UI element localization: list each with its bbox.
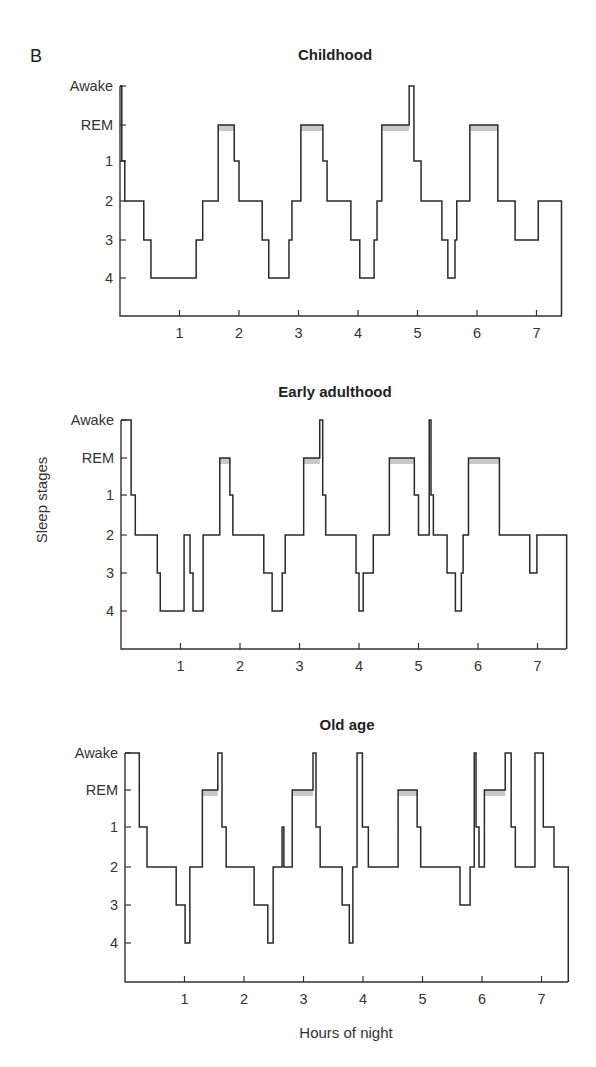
sleep-stage-figure: B Sleep stages Hours of night ChildhoodA… xyxy=(0,0,596,1067)
x-tick-label: 2 xyxy=(240,991,248,1007)
rem-shade xyxy=(382,125,409,131)
x-tick-label: 4 xyxy=(359,991,367,1007)
y-tick-label: Awake xyxy=(75,745,118,761)
hypnogram-early-adulthood: Early adulthoodAwakeREM12341234567 xyxy=(71,383,567,674)
x-tick-label: 2 xyxy=(235,325,243,341)
x-tick-label: 1 xyxy=(175,325,183,341)
y-tick-label: 4 xyxy=(105,270,113,286)
x-tick-label: 6 xyxy=(474,658,482,674)
y-tick-label: 2 xyxy=(106,527,114,543)
chart-title: Early adulthood xyxy=(278,383,391,400)
x-tick-label: 7 xyxy=(532,325,540,341)
rem-shade xyxy=(292,790,313,796)
y-tick-label: 2 xyxy=(110,859,118,875)
y-tick-label: 2 xyxy=(105,193,113,209)
rem-shade xyxy=(484,790,505,796)
x-tick-label: 7 xyxy=(533,658,541,674)
y-tick-label: 4 xyxy=(110,935,118,951)
x-tick-label: 6 xyxy=(473,325,481,341)
sleep-stage-trace xyxy=(120,86,561,316)
y-tick-label: 3 xyxy=(110,897,118,913)
x-tick-label: 3 xyxy=(299,991,307,1007)
rem-shade xyxy=(220,458,230,464)
rem-shade xyxy=(389,458,414,464)
sleep-stage-trace xyxy=(125,753,568,982)
x-tick-label: 5 xyxy=(413,325,421,341)
panel-label: B xyxy=(30,46,42,66)
x-tick-label: 4 xyxy=(354,325,362,341)
x-tick-label: 6 xyxy=(478,991,486,1007)
y-tick-label: 3 xyxy=(106,565,114,581)
x-tick-label: 1 xyxy=(180,991,188,1007)
x-tick-label: 5 xyxy=(418,991,426,1007)
x-tick-label: 5 xyxy=(414,658,422,674)
rem-shade xyxy=(301,125,323,131)
x-tick-label: 3 xyxy=(294,325,302,341)
y-tick-label: REM xyxy=(82,450,114,466)
y-axis-label: Sleep stages xyxy=(33,457,50,544)
y-tick-label: REM xyxy=(86,782,118,798)
y-tick-label: REM xyxy=(81,117,113,133)
y-tick-label: 3 xyxy=(105,232,113,248)
chart-title: Childhood xyxy=(298,46,372,63)
rem-shade xyxy=(468,458,499,464)
y-tick-label: 1 xyxy=(110,819,118,835)
rem-shade xyxy=(470,125,498,131)
y-tick-label: 1 xyxy=(106,487,114,503)
x-tick-label: 7 xyxy=(537,991,545,1007)
rem-shade xyxy=(304,458,320,464)
hypnogram-childhood: ChildhoodAwakeREM12341234567 xyxy=(70,46,562,341)
rem-shade xyxy=(398,790,417,796)
x-tick-label: 1 xyxy=(176,658,184,674)
y-tick-label: Awake xyxy=(70,78,113,94)
y-tick-label: 1 xyxy=(105,153,113,169)
rem-shade xyxy=(218,125,234,131)
chart-title: Old age xyxy=(319,716,374,733)
x-tick-label: 4 xyxy=(355,658,363,674)
hypnogram-old-age: Old ageAwakeREM12341234567 xyxy=(75,716,569,1007)
sleep-stage-trace xyxy=(121,420,567,649)
y-tick-label: Awake xyxy=(71,412,114,428)
rem-shade xyxy=(202,790,217,796)
x-axis-label: Hours of night xyxy=(299,1024,393,1041)
x-tick-label: 3 xyxy=(295,658,303,674)
x-tick-label: 2 xyxy=(236,658,244,674)
y-tick-label: 4 xyxy=(106,603,114,619)
